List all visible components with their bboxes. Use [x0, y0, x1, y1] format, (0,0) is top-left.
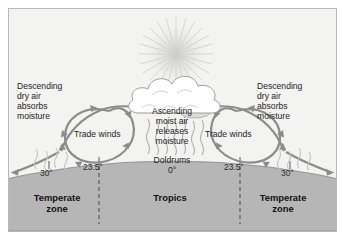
zone-line-1: Temperate — [19, 192, 95, 203]
text-line: Ascending — [139, 106, 205, 116]
label-doldrums: Doldrums 0° — [140, 155, 204, 175]
text-line: absorbs — [17, 101, 95, 111]
doldrums-name: Doldrums — [140, 155, 204, 165]
zone-line-1: Tropics — [137, 192, 203, 203]
text-line: dry air — [257, 91, 335, 101]
doldrums-latitude: 0° — [140, 165, 204, 175]
zone-line-2: zone — [245, 203, 321, 214]
latitude-label-right-30: 30° — [281, 169, 294, 179]
label-trade-winds-left: Trade winds — [74, 129, 121, 139]
text-line: Descending — [17, 81, 95, 91]
label-descending-right: Descending dry air absorbs moisture — [257, 81, 335, 122]
text-line: Descending — [257, 81, 335, 91]
label-trade-winds-right: Trade winds — [205, 129, 252, 139]
text-line: moisture — [139, 136, 205, 146]
text-line: absorbs — [257, 101, 335, 111]
zone-label-temperate-left: Temperate zone — [19, 192, 95, 214]
latitude-label-left-30: 30° — [40, 169, 53, 179]
diagram-screenshot: Descending dry air absorbs moisture Desc… — [0, 0, 343, 248]
zone-label-tropics: Tropics — [137, 192, 203, 203]
zone-label-temperate-right: Temperate zone — [245, 192, 321, 214]
text-line: releases — [139, 126, 205, 136]
label-ascending-center: Ascending moist air releases moisture — [139, 106, 205, 147]
text-line: dry air — [17, 91, 95, 101]
text-line: moisture — [17, 111, 95, 121]
latitude-label-left-tropic: 23.5° — [83, 163, 103, 173]
zone-line-1: Temperate — [245, 192, 321, 203]
zone-line-2: zone — [19, 203, 95, 214]
label-descending-left: Descending dry air absorbs moisture — [17, 81, 95, 122]
text-line: moisture — [257, 111, 335, 121]
diagram-frame: Descending dry air absorbs moisture Desc… — [8, 8, 337, 232]
latitude-label-right-tropic: 23.5° — [224, 163, 244, 173]
text-line: moist air — [139, 116, 205, 126]
